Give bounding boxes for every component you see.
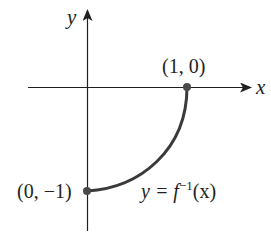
y-axis-label: y xyxy=(65,5,77,29)
curve-label: y = f−1(x) xyxy=(139,178,216,203)
x-axis-label: x xyxy=(255,75,266,99)
inverse-function-curve xyxy=(87,87,187,191)
graph-canvas: y x (1, 0) (0, −1) y = f−1(x) xyxy=(0,0,271,238)
point-1-0 xyxy=(183,83,191,91)
point-label-0-neg1: (0, −1) xyxy=(17,180,72,203)
curve-label-prefix: y = f xyxy=(139,180,181,203)
point-label-1-0: (1, 0) xyxy=(162,55,205,78)
curve-label-sup: −1 xyxy=(179,178,193,193)
curve-label-suffix: (x) xyxy=(193,180,216,203)
point-0-neg1 xyxy=(83,187,91,195)
